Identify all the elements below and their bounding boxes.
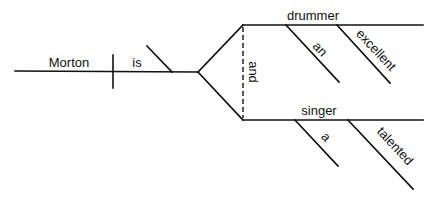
conjunction-word: and <box>246 61 261 83</box>
subject-word: Morton <box>49 55 89 70</box>
modifier-word-an: an <box>310 39 331 60</box>
modifier-slant-a <box>295 120 338 166</box>
modifier-slant-an <box>286 25 339 82</box>
verb-word: is <box>132 55 142 70</box>
fork-lower <box>198 72 243 120</box>
fork-upper <box>198 25 243 72</box>
modifier-word-a: a <box>318 129 334 145</box>
complement-word-singer: singer <box>301 103 337 118</box>
modifier-word-talented: talented <box>374 124 417 168</box>
sentence-diagram: Morton is drummer singer and an excellen… <box>0 0 436 200</box>
complement-word-drummer: drummer <box>287 8 340 23</box>
complement-slant <box>147 46 172 72</box>
